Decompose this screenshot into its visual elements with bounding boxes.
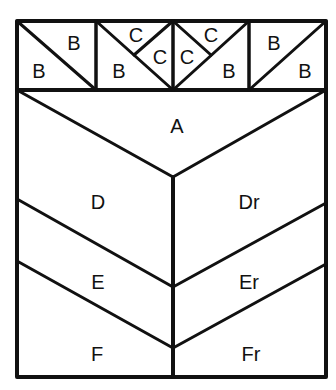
label-b1-bottom: B [32,61,45,81]
label-b2-b: B [112,61,125,81]
label-f: F [91,344,103,364]
label-b4-bottom: B [298,61,311,81]
diagram-lines [0,0,336,390]
label-b3-c-top: C [204,25,218,45]
label-dr: Dr [238,192,259,212]
label-b2-c-top: C [129,25,143,45]
label-e: E [91,272,104,292]
label-er: Er [239,272,259,292]
label-a: A [170,116,183,136]
label-b2-c-right: C [153,47,167,67]
label-b3-c-left: C [180,47,194,67]
quilt-diagram: B B C C B C C B B B A D Dr E Er F Fr [0,0,336,390]
label-b1-top: B [67,33,80,53]
label-b4-top: B [267,33,280,53]
label-d: D [91,192,105,212]
label-b3-b: B [222,61,235,81]
label-fr: Fr [242,344,261,364]
